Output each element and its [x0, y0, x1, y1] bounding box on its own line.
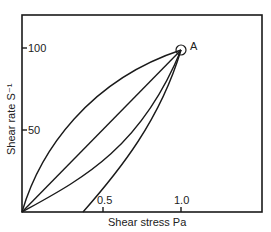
point-a-label: A — [190, 40, 198, 52]
chart: 100 50 0.5 1.0 A Shear stress Pa Shear r… — [0, 0, 271, 232]
y-tick-label-50: 50 — [28, 124, 40, 136]
plot-frame — [22, 15, 262, 212]
y-axis-label: Shear rate S⁻¹ — [5, 83, 17, 155]
x-axis-label: Shear stress Pa — [108, 216, 187, 228]
curve-plastic — [83, 50, 181, 212]
x-tick-label-1.0: 1.0 — [174, 194, 189, 206]
x-tick-label-0.5: 0.5 — [97, 194, 112, 206]
y-tick-label-100: 100 — [28, 42, 46, 54]
curve-newtonian — [22, 50, 181, 212]
